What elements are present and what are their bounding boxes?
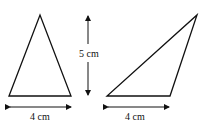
left-base-label: 4 cm	[30, 112, 50, 122]
right-triangle	[107, 15, 197, 96]
height-label: 5 cm	[79, 49, 99, 59]
left-triangle	[9, 15, 71, 96]
diagram-svg	[0, 0, 204, 124]
diagram-canvas: 5 cm 4 cm 4 cm	[0, 0, 204, 124]
right-base-label: 4 cm	[125, 112, 145, 122]
